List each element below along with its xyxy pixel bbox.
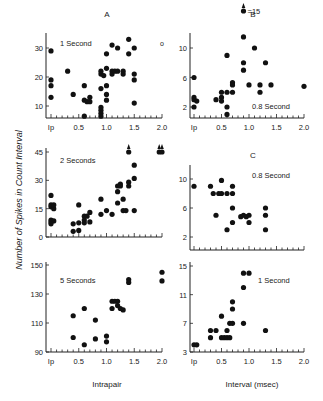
x-tick-label: 0.5	[216, 123, 226, 132]
data-point	[252, 45, 257, 50]
data-point	[194, 342, 199, 347]
data-point	[132, 163, 137, 168]
data-point	[76, 202, 81, 207]
y-tick-label: 3	[183, 348, 187, 357]
panel-A-1s: Ip0.51.01.52.01020301 SecondAo	[35, 10, 168, 132]
data-point	[246, 213, 251, 218]
y-tick-label: 110	[31, 319, 43, 328]
panel-A-2s: 01530452 Seconds	[35, 144, 165, 242]
off-scale-annotation: =15	[248, 7, 261, 16]
y-tick-label: 0	[39, 233, 43, 242]
data-point	[194, 99, 199, 104]
data-point	[191, 184, 196, 189]
data-point	[224, 104, 229, 109]
data-point	[48, 83, 53, 88]
data-point	[104, 208, 109, 213]
y-tick-label: 30	[35, 176, 43, 185]
x-tick-label: Ip	[48, 357, 54, 366]
data-point	[123, 208, 128, 213]
panel-title: 2 Seconds	[60, 156, 96, 165]
data-point	[51, 202, 56, 207]
data-point	[82, 306, 87, 311]
data-point	[230, 205, 235, 210]
data-point	[109, 212, 114, 217]
y-tick-label: 11	[179, 291, 187, 300]
x-tick-label: Ip	[48, 123, 54, 132]
data-point	[76, 220, 81, 225]
data-point	[213, 213, 218, 218]
data-point	[230, 90, 235, 95]
y-tick-label: 7	[183, 319, 187, 328]
data-point	[109, 43, 114, 48]
x-axis-label-right: Interval (msec)	[226, 380, 279, 389]
x-tick-label: 2.0	[157, 123, 167, 132]
data-point	[208, 184, 213, 189]
off-scale-point	[241, 8, 246, 13]
data-point	[104, 98, 109, 103]
data-point	[101, 73, 106, 78]
x-tick-label: 2.0	[299, 357, 309, 366]
data-point	[115, 200, 120, 205]
data-point	[241, 321, 246, 326]
x-tick-label: 1.0	[244, 123, 254, 132]
data-point	[246, 82, 251, 87]
data-point	[224, 328, 229, 333]
panel-A-5s: Ip0.51.01.52.0901101301505 Seconds	[30, 261, 167, 366]
data-point	[71, 229, 76, 234]
panel-title: 0.8 Second	[252, 102, 290, 111]
panel-title: 1 Second	[60, 39, 92, 48]
y-tick-label: 15	[179, 262, 187, 271]
y-tick-label: 45	[35, 148, 43, 157]
data-point	[224, 191, 229, 196]
data-point	[241, 271, 246, 276]
y-tick-label: 10	[35, 102, 43, 111]
data-point	[118, 183, 123, 188]
data-point	[121, 197, 126, 202]
figure: Number of Spikes in Count Interval Intra…	[0, 0, 323, 401]
data-point	[121, 72, 126, 77]
y-tick-label: 15	[35, 205, 43, 214]
data-point	[246, 271, 251, 276]
data-point	[230, 306, 235, 311]
data-point	[263, 227, 268, 232]
data-point	[224, 112, 229, 117]
panel-letter: A	[104, 10, 110, 19]
panel-title: 0.8 Second	[252, 171, 290, 180]
data-point	[208, 328, 213, 333]
data-point	[227, 335, 232, 340]
data-point	[241, 34, 246, 39]
y-tick-label: 10	[179, 44, 187, 53]
data-point	[219, 90, 224, 95]
data-point	[71, 313, 76, 318]
data-point	[121, 307, 126, 312]
data-point	[301, 84, 306, 89]
data-point	[219, 191, 224, 196]
data-point	[132, 208, 137, 213]
panel-C-1s: Ip0.51.01.52.03711151 Second	[179, 262, 310, 366]
data-point	[191, 75, 196, 80]
data-point	[246, 220, 251, 225]
data-point	[230, 82, 235, 87]
data-point	[132, 101, 137, 106]
data-point	[230, 299, 235, 304]
y-tick-label: 150	[30, 261, 43, 270]
data-point	[191, 104, 196, 109]
data-point	[213, 328, 218, 333]
data-point	[109, 306, 114, 311]
y-axis-label: Number of Spikes in Count Interval	[14, 129, 24, 270]
data-point	[132, 72, 137, 77]
data-point	[241, 60, 246, 65]
x-tick-label: 0.5	[74, 357, 84, 366]
data-point	[132, 77, 137, 82]
data-point	[82, 220, 87, 225]
panel-B-0.8s: Ip0.51.01.52.026100.8 SecondB=15	[179, 3, 310, 132]
data-point	[65, 69, 70, 74]
data-point	[219, 314, 224, 319]
data-point	[115, 45, 120, 50]
data-point	[115, 69, 120, 74]
data-point	[159, 270, 164, 275]
data-point	[230, 321, 235, 326]
data-point	[263, 205, 268, 210]
panel-letter: C	[250, 151, 256, 160]
data-point	[82, 114, 87, 119]
